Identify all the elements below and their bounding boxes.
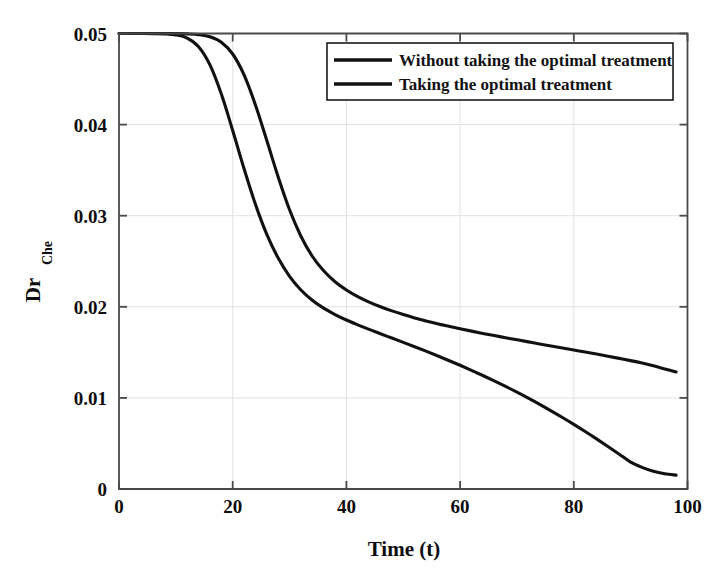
x-tick-label: 100: [673, 496, 702, 517]
x-axis-title: Time (t): [368, 537, 441, 561]
x-tick-label: 20: [223, 496, 242, 517]
legend[interactable]: Without taking the optimal treatment Tak…: [327, 43, 673, 100]
y-axis-title-subscript: Che: [40, 241, 55, 265]
x-tick-label: 0: [114, 496, 124, 517]
y-tick-label: 0.05: [74, 24, 107, 45]
x-tick-label: 80: [564, 496, 583, 517]
legend-label-with-treatment: Taking the optimal treatment: [399, 75, 612, 94]
y-axis-title-text: Dr: [21, 278, 45, 303]
chart-canvas: 02040608010000.010.020.030.040.05 Dr Che…: [0, 0, 728, 582]
chart-figure: 02040608010000.010.020.030.040.05 Dr Che…: [0, 0, 728, 582]
x-tick-label: 40: [337, 496, 356, 517]
y-tick-label: 0.01: [74, 388, 107, 409]
y-tick-label: 0.03: [74, 206, 107, 227]
y-tick-label: 0.04: [74, 115, 108, 136]
y-tick-label: 0.02: [74, 297, 107, 318]
legend-label-without-treatment: Without taking the optimal treatment: [399, 51, 673, 70]
y-tick-label: 0: [98, 479, 108, 500]
x-tick-label: 60: [451, 496, 470, 517]
